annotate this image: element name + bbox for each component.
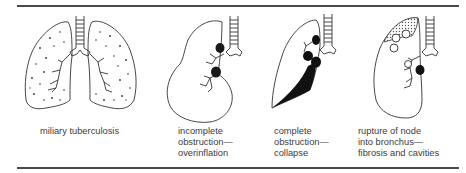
caption-rupture-fibrosis: rupture of node into bronchus— fibrosis …: [358, 126, 439, 159]
caption-collapse: complete obstruction— collapse: [274, 126, 329, 159]
panel-rupture-fibrosis: rupture of node into bronchus— fibrosis …: [350, 0, 466, 173]
panel-miliary-tuberculosis: miliary tuberculosis: [0, 0, 150, 173]
panel-collapse: complete obstruction— collapse: [260, 0, 350, 173]
panel-overinflation: incomplete obstruction— overinflation: [150, 0, 260, 173]
caption-overinflation: incomplete obstruction— overinflation: [178, 126, 233, 159]
caption-miliary-tuberculosis: miliary tuberculosis: [40, 126, 119, 137]
bottom-rule: [17, 167, 459, 169]
lungs-miliary-illustration: [0, 0, 150, 140]
lung-collapse-illustration: [260, 0, 350, 140]
lung-fibrosis-cavities-illustration: [350, 0, 466, 140]
lung-overinflation-illustration: [150, 0, 260, 140]
